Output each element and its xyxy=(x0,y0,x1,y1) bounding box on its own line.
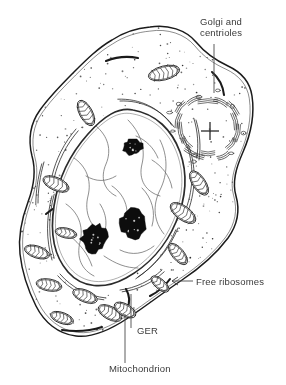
label-line: Mitochondrion xyxy=(109,363,171,374)
nucleolus-speckle xyxy=(129,143,130,144)
nucleolus-speckle xyxy=(97,237,99,239)
label-mitochondrion: Mitochondrion xyxy=(109,363,171,374)
cell-diagram-figure: Golgi andcentriolesFree ribosomesGERMito… xyxy=(0,0,286,385)
nucleolus-speckle xyxy=(90,242,92,244)
nucleolus-speckle xyxy=(92,234,94,236)
nucleolus-speckle xyxy=(125,218,127,220)
nucleolus-speckle xyxy=(134,229,135,230)
label-line: Free ribosomes xyxy=(196,276,264,287)
label-golgi-and-centrioles: Golgi andcentrioles xyxy=(200,16,242,38)
label-line: Golgi and xyxy=(200,16,242,27)
nucleolus-speckle xyxy=(133,220,135,222)
label-line: GER xyxy=(137,325,158,336)
label-ger: GER xyxy=(137,325,158,336)
label-line: centrioles xyxy=(200,27,242,38)
nucleolus-speckle xyxy=(138,217,140,219)
diagram-canvas: Golgi andcentriolesFree ribosomesGERMito… xyxy=(0,0,286,385)
nucleolus-speckle xyxy=(127,231,129,233)
nucleolus-speckle xyxy=(99,242,101,244)
nucleolus-speckle xyxy=(137,229,139,231)
nucleolus-speckle xyxy=(134,143,135,144)
nucleolus-speckle xyxy=(132,149,134,151)
label-free-ribosomes: Free ribosomes xyxy=(196,276,264,287)
nucleolus-speckle xyxy=(92,237,93,238)
nucleolus-speckle xyxy=(99,244,100,245)
nucleolus-speckle xyxy=(129,147,131,149)
nucleolus-speckle xyxy=(91,239,93,241)
nucleolus-speckle xyxy=(135,150,136,151)
